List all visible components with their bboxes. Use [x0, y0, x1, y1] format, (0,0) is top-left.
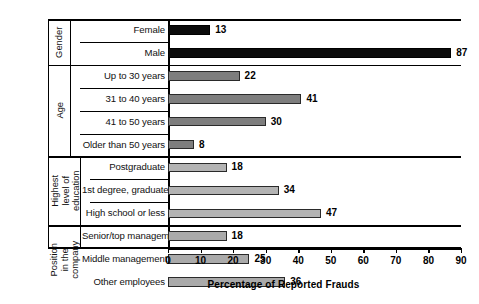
x-axis-title: Percentage of Reported Frauds	[208, 279, 360, 290]
x-axis-tick-label: 80	[423, 255, 434, 266]
row-label: Older than 50 years	[72, 134, 165, 157]
bar-value-label: 18	[232, 162, 243, 172]
group-label-education: Highest level of education	[48, 156, 82, 225]
group-label-age: Age	[48, 65, 72, 157]
x-axis-tick	[461, 248, 462, 253]
x-axis-tick	[396, 248, 397, 253]
bar	[168, 94, 301, 104]
x-axis-tick	[298, 248, 299, 253]
row-label: 31 to 40 years	[72, 88, 165, 111]
bar	[168, 117, 266, 127]
group-label-gender: Gender	[48, 19, 72, 65]
bar-value-label: 13	[215, 25, 226, 35]
bar-value-label: 41	[306, 94, 317, 104]
x-axis-line	[168, 248, 462, 250]
x-axis-tick	[363, 248, 364, 253]
row-label: 41 to 50 years	[72, 111, 165, 134]
x-axis-tick	[233, 248, 234, 253]
x-axis-tick	[266, 248, 267, 253]
x-axis-tick-label: 50	[325, 255, 336, 266]
x-axis-tick-label: 90	[455, 255, 466, 266]
bar	[168, 25, 210, 35]
x-axis-tick-label: 20	[228, 255, 239, 266]
bar	[168, 48, 451, 58]
x-axis-tick	[201, 248, 202, 253]
row-label: High school or less	[82, 202, 165, 225]
row-label: Middle management	[82, 248, 165, 271]
bar	[168, 209, 321, 219]
row-label: Senior/top management	[82, 225, 165, 248]
bar-value-label: 8	[199, 140, 205, 150]
x-axis-tick-label: 70	[390, 255, 401, 266]
row-label: Up to 30 years	[72, 65, 165, 88]
x-axis-tick-label: 40	[293, 255, 304, 266]
x-axis-tick	[331, 248, 332, 253]
bar-value-label: 87	[456, 48, 467, 58]
group-label-age-text: Age	[55, 102, 66, 119]
x-axis-tick-label: 10	[195, 255, 206, 266]
bar-value-label: 47	[326, 208, 337, 218]
bar-chart: Gender Age Highest level of education Po…	[0, 0, 479, 304]
row-label: 1st degree, graduate	[82, 179, 165, 202]
bar-value-label: 18	[232, 231, 243, 241]
row-label: Postgraduate	[82, 156, 165, 179]
group-label-education-text: Highest level of education	[49, 170, 81, 211]
bar	[168, 231, 227, 241]
x-axis-tick	[428, 248, 429, 253]
x-axis-tick-label: 60	[358, 255, 369, 266]
group-label-gender-text: Gender	[55, 26, 66, 57]
x-axis-tick	[168, 248, 169, 253]
group-label-position-text: Position in the company	[49, 240, 81, 278]
x-axis-tick-label: 30	[260, 255, 271, 266]
bar	[168, 163, 227, 173]
bar-value-label: 34	[284, 185, 295, 195]
x-axis-tick-label: 0	[165, 255, 171, 266]
x-axis-title-wrap: Percentage of Reported Frauds	[0, 279, 479, 290]
bar-value-label: 22	[245, 71, 256, 81]
row-label: Male	[72, 42, 165, 65]
bar	[168, 186, 279, 196]
bar	[168, 71, 240, 81]
row-label: Female	[72, 19, 165, 42]
bar-value-label: 30	[271, 117, 282, 127]
bar	[168, 140, 194, 150]
